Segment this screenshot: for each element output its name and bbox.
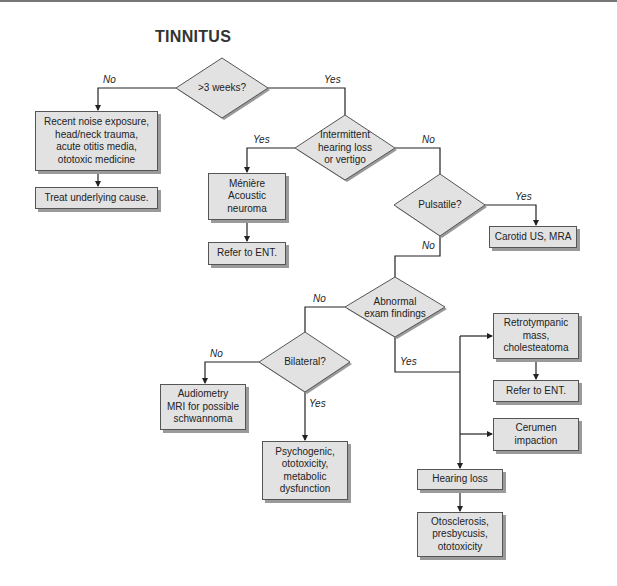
edge-label-bilateral-no: No	[210, 348, 223, 359]
box-acute-causes: Recent noise exposure, head/neck trauma,…	[35, 111, 158, 171]
decision-intermittent: Intermittent hearing loss or vertigo	[305, 128, 385, 168]
box-retrotympanic: Retrotympanic mass, cholesteatoma	[493, 313, 579, 359]
edge-label-duration-yes: Yes	[324, 74, 341, 85]
box-meniere-neuroma: Ménière Acoustic neuroma	[208, 173, 286, 220]
box-treat-underlying-cause: Treat underlying cause.	[35, 187, 158, 209]
box-hearing-loss: Hearing loss	[417, 469, 503, 490]
edge-label-abnormal-no: No	[313, 293, 326, 304]
edge-label-abnormal-yes: Yes	[400, 356, 417, 367]
box-psychogenic: Psychogenic, ototoxicity, metabolic dysf…	[262, 441, 348, 500]
edge-label-pulsatile-yes: Yes	[515, 191, 532, 202]
edge-label-pulsatile-no: No	[422, 240, 435, 251]
decision-abnormal: Abnormal exam findings	[350, 294, 440, 322]
edge-label-intermittent-yes: Yes	[253, 134, 270, 145]
edge-label-duration-no: No	[103, 74, 116, 85]
box-refer-ent-2: Refer to ENT.	[493, 380, 579, 402]
edge-label-intermittent-no: No	[422, 134, 435, 145]
box-audiometry-mri: Audiometry MRI for possible schwannoma	[160, 384, 246, 430]
chart-title: TINNITUS	[155, 28, 231, 46]
decision-pulsatile: Pulsatile?	[404, 197, 476, 213]
decision-bilateral: Bilateral?	[269, 354, 341, 370]
box-refer-ent-1: Refer to ENT.	[208, 242, 286, 265]
box-otosclerosis: Otosclerosis, presbycusis, ototoxicity	[417, 512, 503, 557]
box-carotid-us-mra: Carotid US, MRA	[489, 226, 577, 248]
decision-duration: >3 weeks?	[186, 80, 258, 96]
box-cerumen-impaction: Cerumen impaction	[493, 418, 579, 451]
edge-label-bilateral-yes: Yes	[309, 398, 326, 409]
